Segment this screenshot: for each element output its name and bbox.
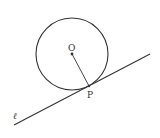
label-line: ℓ (13, 111, 17, 121)
tangent-line-l (14, 54, 150, 125)
label-o: O (68, 43, 75, 53)
diagram-canvas: O P ℓ (0, 0, 160, 138)
label-p: P (87, 90, 93, 100)
center-point-o (71, 53, 74, 56)
radius-op (72, 54, 89, 86)
tangent-point-p (88, 85, 90, 87)
tangent-circle-diagram: O P ℓ (0, 0, 160, 138)
